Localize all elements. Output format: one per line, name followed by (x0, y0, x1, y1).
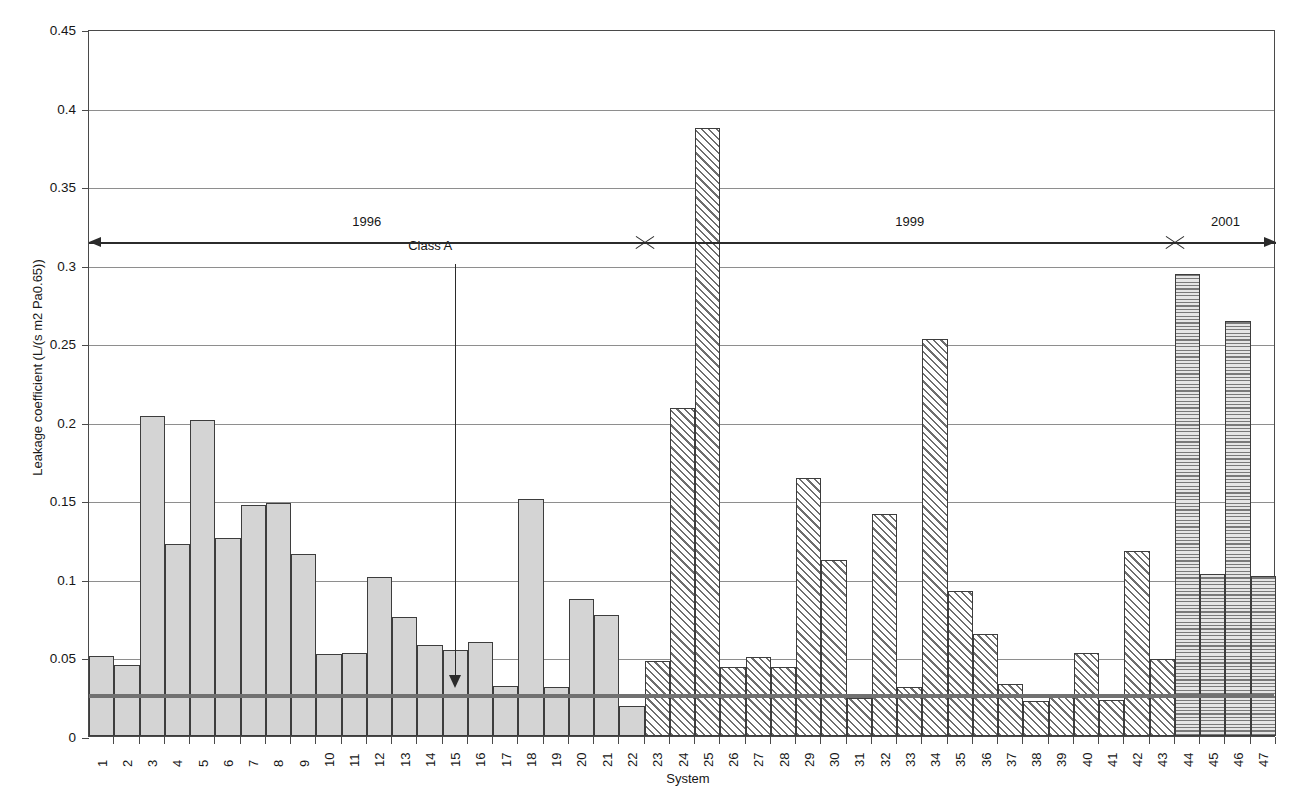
bar (720, 667, 745, 736)
y-tick-mark (82, 738, 89, 739)
y-tick-mark (82, 659, 89, 660)
x-tick-mark (1048, 737, 1049, 744)
y-tick-label: 0.25 (50, 337, 76, 352)
bar (518, 499, 543, 736)
bar (266, 503, 291, 736)
x-tick-label: 28 (777, 753, 792, 767)
x-tick-label: 44 (1181, 753, 1196, 767)
x-tick-label: 17 (499, 753, 514, 767)
x-tick-label: 40 (1080, 753, 1095, 767)
x-tick-label: 43 (1155, 753, 1170, 767)
bar (594, 615, 619, 736)
x-tick-label: 21 (600, 753, 615, 767)
x-tick-mark (492, 737, 493, 744)
x-tick-mark (618, 737, 619, 744)
y-tick-mark (82, 502, 89, 503)
year-span-label: 2001 (1211, 214, 1240, 229)
x-tick-mark (896, 737, 897, 744)
x-tick-mark (694, 737, 695, 744)
x-tick-label: 26 (726, 753, 741, 767)
y-tick-label: 0.4 (57, 101, 76, 116)
x-tick-mark (921, 737, 922, 744)
x-tick-label: 36 (979, 753, 994, 767)
bar (1049, 697, 1074, 736)
y-tick-label: 0.45 (50, 23, 76, 38)
x-tick-label: 14 (423, 753, 438, 767)
x-tick-mark (997, 737, 998, 744)
x-tick-label: 27 (751, 753, 766, 767)
x-tick-label: 33 (903, 753, 918, 767)
x-tick-mark (391, 737, 392, 744)
x-tick-mark (416, 737, 417, 744)
x-tick-mark (113, 737, 114, 744)
bar (1099, 700, 1124, 736)
x-tick-label: 22 (625, 753, 640, 767)
bar (291, 554, 316, 736)
x-tick-mark (669, 737, 670, 744)
bar (367, 577, 392, 736)
plot-area: Class A199619992001 (88, 30, 1275, 737)
x-tick-mark (240, 737, 241, 744)
x-tick-label: 15 (448, 753, 463, 767)
bar (417, 645, 442, 736)
bar (695, 128, 720, 736)
x-tick-label: 16 (473, 753, 488, 767)
x-tick-label: 9 (297, 760, 312, 767)
y-tick-mark (82, 345, 89, 346)
bar (190, 420, 215, 736)
x-tick-mark (568, 737, 569, 744)
x-tick-label: 12 (372, 753, 387, 767)
x-tick-label: 32 (878, 753, 893, 767)
bar (1175, 274, 1200, 736)
x-tick-label: 41 (1105, 753, 1120, 767)
x-tick-label: 42 (1130, 753, 1145, 767)
x-tick-mark (795, 737, 796, 744)
x-tick-mark (644, 737, 645, 744)
x-tick-label: 38 (1029, 753, 1044, 767)
x-tick-label: 4 (170, 760, 185, 767)
bar (1225, 321, 1250, 736)
x-tick-label: 6 (221, 760, 236, 767)
bar (1200, 574, 1225, 736)
bar (1251, 576, 1276, 736)
x-tick-mark (1275, 737, 1276, 744)
bar (392, 617, 417, 736)
class-a-reference-line (89, 694, 1274, 698)
x-tick-label: 31 (852, 753, 867, 767)
x-tick-label: 19 (549, 753, 564, 767)
bar (215, 538, 240, 736)
bar-series (89, 31, 1274, 736)
x-tick-mark (265, 737, 266, 744)
x-tick-mark (442, 737, 443, 744)
span-arrow-right (1264, 237, 1276, 247)
x-tick-mark (543, 737, 544, 744)
y-tick-label: 0 (68, 730, 76, 745)
y-tick-label: 0.2 (57, 415, 76, 430)
x-tick-label: 24 (676, 753, 691, 767)
y-tick-label: 0.35 (50, 180, 76, 195)
x-tick-mark (315, 737, 316, 744)
x-tick-mark (972, 737, 973, 744)
x-tick-label: 34 (928, 753, 943, 767)
x-tick-mark (341, 737, 342, 744)
x-tick-mark (1022, 737, 1023, 744)
y-tick-mark (82, 424, 89, 425)
x-tick-mark (1073, 737, 1074, 744)
x-tick-mark (1123, 737, 1124, 744)
x-tick-label: 1 (95, 760, 110, 767)
bar (165, 544, 190, 736)
x-tick-label: 5 (196, 760, 211, 767)
x-tick-mark (189, 737, 190, 744)
y-tick-mark (82, 31, 89, 32)
bar (998, 684, 1023, 736)
bar (114, 665, 139, 736)
bar (569, 599, 594, 736)
bar (973, 634, 998, 736)
y-tick-label: 0.05 (50, 651, 76, 666)
x-tick-label: 8 (271, 760, 286, 767)
x-tick-mark (164, 737, 165, 744)
x-tick-mark (871, 737, 872, 744)
x-tick-mark (517, 737, 518, 744)
bar (619, 706, 644, 736)
bar (771, 667, 796, 736)
